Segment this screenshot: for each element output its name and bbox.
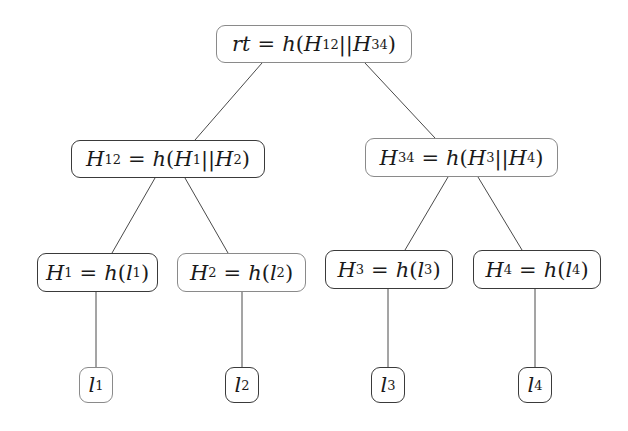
subscript: 4	[504, 262, 512, 277]
leaf-l1: l1	[79, 367, 113, 403]
hash-fn: h	[104, 261, 118, 285]
arg-var: H	[468, 146, 486, 170]
leaf-var: l	[235, 373, 242, 397]
arg-var: H	[215, 147, 233, 171]
edge-H12-H1	[112, 178, 155, 253]
node-H3: H3 = h(l3)	[325, 250, 453, 289]
arg-var: l	[270, 261, 277, 285]
subscript: 1	[64, 265, 72, 280]
subscript: 3	[486, 150, 494, 165]
arg-var: l	[417, 258, 424, 282]
rparen: )	[141, 261, 149, 285]
rparen: )	[285, 261, 293, 285]
rparen: )	[580, 258, 588, 282]
concat-op: ||	[339, 32, 353, 56]
subscript: 3	[387, 378, 395, 393]
leaf-var: l	[89, 373, 96, 397]
edge-root-H12	[195, 63, 262, 140]
node-var: H	[46, 261, 64, 285]
node-H34: H34 = h(H3||H4)	[365, 138, 558, 177]
arg-var: l	[565, 258, 572, 282]
subscript: 34	[398, 150, 415, 165]
hash-fn: h	[153, 147, 167, 171]
lparen: (	[557, 258, 565, 282]
equals-sign: =	[224, 261, 242, 285]
equals-sign: =	[80, 261, 98, 285]
node-var: H	[380, 146, 398, 170]
edge-H12-H2	[185, 178, 228, 253]
hash-fn: h	[282, 32, 296, 56]
concat-op: ||	[494, 146, 508, 170]
hash-fn: h	[544, 258, 558, 282]
subscript: 12	[104, 152, 121, 167]
rparen: )	[432, 258, 440, 282]
rparen: )	[388, 32, 396, 56]
edge-H34-H3	[405, 177, 448, 250]
leaf-l2: l2	[225, 367, 259, 403]
lparen: (	[409, 258, 417, 282]
subscript: 3	[424, 262, 432, 277]
lparen: (	[262, 261, 270, 285]
leaf-l4: l4	[518, 367, 552, 403]
edge-root-H34	[365, 63, 435, 138]
subscript: 12	[322, 37, 339, 52]
lparen: (	[460, 146, 468, 170]
lparen: (	[296, 32, 304, 56]
arg-var: H	[509, 146, 527, 170]
arg-var: H	[174, 147, 192, 171]
node-H12: H12 = h(H1||H2)	[71, 140, 265, 178]
subscript: 2	[277, 265, 285, 280]
subscript: 4	[534, 378, 542, 393]
rparen: )	[535, 146, 543, 170]
edge-H34-H4	[478, 177, 522, 250]
node-var: H	[190, 261, 208, 285]
leaf-var: l	[528, 373, 535, 397]
arg-var: l	[126, 261, 133, 285]
node-var: H	[485, 258, 503, 282]
root-var: rt	[232, 32, 250, 56]
subscript: 4	[572, 262, 580, 277]
node-root: rt = h(H12||H34)	[216, 25, 412, 63]
node-var: H	[337, 258, 355, 282]
node-H4: H4 = h(l4)	[473, 250, 601, 289]
subscript: 34	[371, 37, 388, 52]
subscript: 1	[193, 152, 201, 167]
hash-fn: h	[396, 258, 410, 282]
leaf-var: l	[381, 373, 388, 397]
equals-sign: =	[258, 32, 276, 56]
subscript: 3	[356, 262, 364, 277]
hash-fn: h	[446, 146, 460, 170]
subscript: 4	[527, 150, 535, 165]
subscript: 2	[208, 265, 216, 280]
rparen: )	[242, 147, 250, 171]
equals-sign: =	[519, 258, 537, 282]
subscript: 2	[241, 378, 249, 393]
node-H2: H2 = h(l2)	[177, 253, 306, 292]
lparen: (	[118, 261, 126, 285]
node-H1: H1 = h(l1)	[37, 253, 158, 292]
equals-sign: =	[128, 147, 146, 171]
subscript: 1	[95, 378, 103, 393]
arg-var: H	[304, 32, 322, 56]
equals-sign: =	[371, 258, 389, 282]
node-var: H	[86, 147, 104, 171]
leaf-l3: l3	[371, 367, 405, 403]
hash-fn: h	[248, 261, 262, 285]
equals-sign: =	[421, 146, 439, 170]
subscript: 2	[233, 152, 241, 167]
arg-var: H	[353, 32, 371, 56]
concat-op: ||	[201, 147, 215, 171]
subscript: 1	[133, 265, 141, 280]
